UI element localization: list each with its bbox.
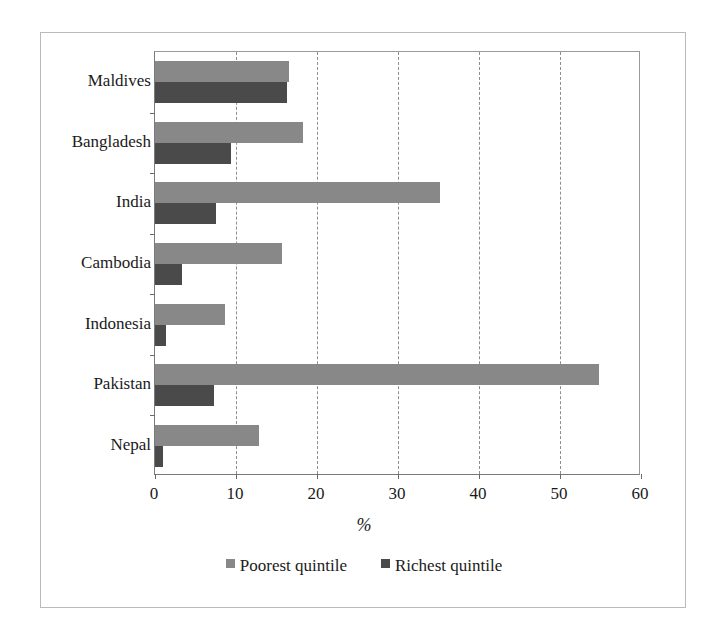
x-tick-mark (317, 474, 318, 479)
bar-group (155, 182, 639, 224)
y-tick-mark (150, 234, 155, 235)
bar (155, 264, 182, 285)
bar (155, 143, 231, 164)
y-tick-mark (150, 173, 155, 174)
bar (155, 61, 289, 82)
x-tick-label: 10 (215, 485, 255, 502)
bar (155, 182, 440, 203)
legend-label: Richest quintile (395, 557, 502, 574)
bar-group (155, 61, 639, 103)
x-tick-label: 0 (134, 485, 174, 502)
plot-area (154, 51, 640, 475)
bar-group (155, 304, 639, 346)
category-label: Maldives (88, 72, 151, 89)
x-tick-label: 60 (620, 485, 660, 502)
legend-entry: Poorest quintile (226, 557, 347, 574)
bar (155, 304, 225, 325)
legend-label: Poorest quintile (240, 557, 347, 574)
y-tick-mark (150, 415, 155, 416)
category-label: Pakistan (93, 375, 151, 392)
x-tick-label: 30 (377, 485, 417, 502)
category-label: India (116, 193, 151, 210)
bar (155, 82, 287, 103)
bar (155, 425, 259, 446)
x-tick-mark (560, 474, 561, 479)
y-tick-mark (150, 113, 155, 114)
bar (155, 203, 216, 224)
x-tick-label: 20 (296, 485, 336, 502)
y-tick-mark (150, 294, 155, 295)
bar-group (155, 425, 639, 467)
chart-legend: Poorest quintileRichest quintile (41, 557, 687, 574)
x-tick-mark (479, 474, 480, 479)
bar (155, 385, 214, 406)
bar-group (155, 122, 639, 164)
legend-swatch-icon (226, 559, 235, 568)
x-tick-mark (641, 474, 642, 479)
x-axis-title: % (41, 515, 687, 536)
bar (155, 122, 303, 143)
x-tick-label: 50 (539, 485, 579, 502)
category-label: Indonesia (85, 315, 151, 332)
chart-figure: MaldivesBangladeshIndiaCambodiaIndonesia… (40, 32, 686, 608)
bar-group (155, 364, 639, 406)
legend-swatch-icon (381, 559, 390, 568)
category-label: Nepal (110, 436, 151, 453)
bar (155, 325, 166, 346)
bar-group (155, 243, 639, 285)
x-tick-mark (236, 474, 237, 479)
x-tick-mark (155, 474, 156, 479)
legend-entry: Richest quintile (381, 557, 502, 574)
category-label: Bangladesh (72, 133, 151, 150)
x-tick-mark (398, 474, 399, 479)
bar (155, 243, 282, 264)
category-label: Cambodia (81, 254, 151, 271)
bar (155, 364, 599, 385)
x-tick-label: 40 (458, 485, 498, 502)
bar (155, 446, 163, 467)
y-tick-mark (150, 355, 155, 356)
